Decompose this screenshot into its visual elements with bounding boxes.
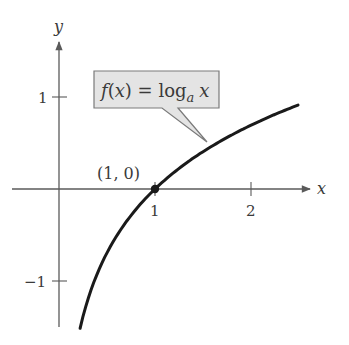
point-label: (1, 0)	[97, 164, 140, 183]
y-axis-label: y	[53, 17, 64, 36]
log-curve	[80, 105, 298, 328]
point-1-0	[151, 185, 159, 193]
y-tick-label-neg1: −1	[24, 273, 46, 291]
function-label-mid: ) = log	[125, 80, 187, 101]
function-callout: f(x) = logax	[94, 71, 219, 142]
y-tick-label-1: 1	[38, 89, 48, 107]
x-tick-label-1: 1	[150, 202, 160, 220]
x-tick-2: 2	[246, 182, 256, 220]
y-tick-neg1: −1	[24, 273, 67, 291]
log-function-graph: x y 1 2 1 −1 (1, 0) f(x) = logax	[0, 0, 349, 345]
function-label-var: x	[199, 80, 209, 101]
function-label-subscript: a	[187, 90, 195, 105]
x-axis-label: x	[317, 179, 326, 198]
y-tick-1: 1	[38, 89, 67, 107]
x-tick-label-2: 2	[246, 202, 256, 220]
